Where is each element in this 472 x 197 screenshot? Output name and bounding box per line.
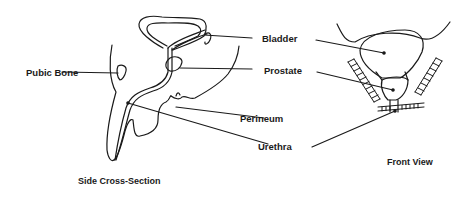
- scrotum-outline: [171, 46, 239, 99]
- side-cross-section-drawing: [107, 16, 239, 160]
- pelvis-curve: [337, 22, 450, 42]
- label-perineum: Perineum: [240, 114, 283, 124]
- right-levator-muscle: [415, 58, 442, 95]
- bladder-front: [360, 30, 423, 78]
- body-outline-front: [107, 45, 116, 161]
- penis-outline: [114, 96, 171, 160]
- label-urethra: Urethra: [258, 142, 292, 152]
- front-view-drawing: [337, 22, 450, 112]
- anatomy-diagram: Pubic Bone Bladder Prostate Perineum Ure…: [0, 0, 472, 197]
- caption-side-cross-section: Side Cross-Section: [78, 177, 161, 186]
- caption-front-view: Front View: [387, 158, 433, 167]
- pelvic-floor-muscle: [378, 103, 424, 111]
- label-bladder: Bladder: [262, 34, 297, 44]
- prostate-leader: [180, 68, 252, 69]
- urethra-side-a: [115, 48, 168, 160]
- bladder-leader-front: [316, 40, 384, 53]
- urethra-leader-front: [312, 111, 395, 147]
- diagram-drawing: [0, 0, 472, 197]
- label-pubic-bone: Pubic Bone: [26, 68, 78, 78]
- urethra-side-b: [116, 48, 172, 160]
- label-prostate: Prostate: [264, 66, 302, 76]
